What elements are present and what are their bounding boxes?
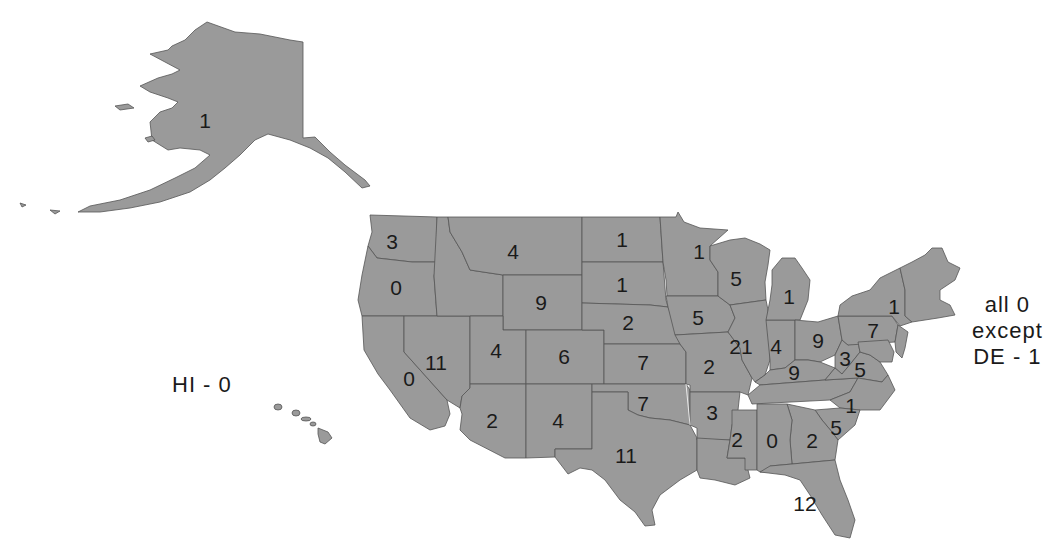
state-value-al: 0 [766,430,778,451]
state-value-wa: 3 [386,231,398,252]
lower-48-shape [358,212,960,538]
state-value-ga: 2 [806,430,818,451]
hawaii-note: HI - 0 [172,372,232,398]
state-value-ia: 5 [692,307,704,328]
alaska-shape [20,22,370,214]
state-value-ca: 0 [403,368,415,389]
state-value-la_ms: 2 [731,429,743,450]
northeast-note-line1: all 0 [972,292,1043,318]
state-value-wv: 3 [839,348,851,369]
state-value-fl: 12 [793,493,816,514]
state-value-or: 0 [390,277,402,298]
state-value-nm: 4 [552,410,564,431]
state-value-ar: 3 [706,402,718,423]
us-map [0,0,1057,558]
state-value-sc: 5 [830,417,842,438]
northeast-note: all 0 except DE - 1 [972,292,1043,370]
state-value-mn: 1 [693,241,705,262]
state-value-ky: 9 [788,362,800,383]
state-value-ak: 1 [199,110,211,131]
state-value-mo: 2 [703,356,715,377]
state-value-oh: 9 [812,330,824,351]
state-value-ne: 2 [622,312,634,333]
northeast-note-line2: except [972,318,1043,344]
state-value-wi: 5 [730,268,742,289]
state-value-nv: 11 [425,352,447,373]
state-value-co: 6 [558,346,570,367]
state-value-ny: 1 [888,296,900,317]
state-value-ok: 7 [637,393,649,414]
hawaii-shape [274,404,332,444]
state-value-mi: 1 [783,286,795,307]
state-value-il: 21 [729,336,752,357]
state-value-in: 4 [770,336,782,357]
state-value-va: 5 [854,359,866,380]
state-value-ut: 4 [490,340,502,361]
state-value-sd: 1 [616,274,628,295]
state-value-id_mt: 4 [507,241,519,262]
state-value-nd: 1 [616,229,628,250]
state-value-ks: 7 [637,352,649,373]
state-value-nc: 1 [845,395,857,416]
state-value-tx: 11 [615,445,637,466]
state-value-pa: 7 [867,320,879,341]
northeast-note-line3: DE - 1 [972,344,1043,370]
state-value-wy: 9 [535,292,547,313]
state-value-az: 2 [486,410,498,431]
